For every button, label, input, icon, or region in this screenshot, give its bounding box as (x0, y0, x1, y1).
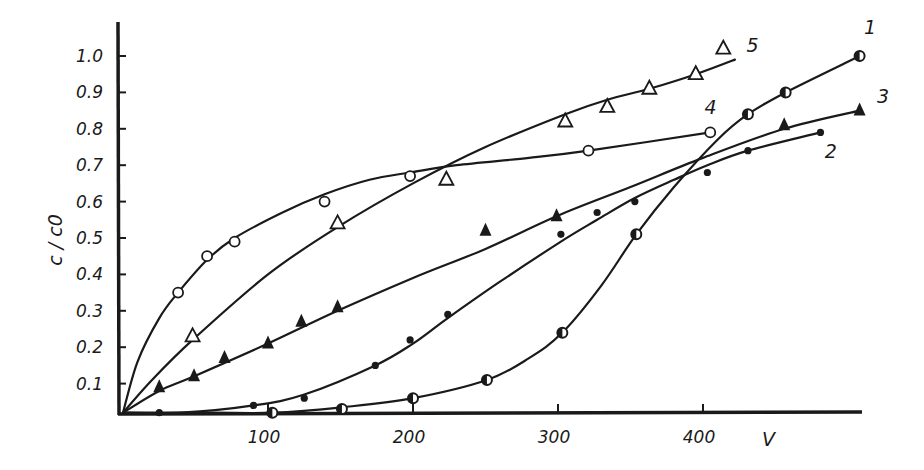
filled-dot-marker (301, 395, 308, 402)
axes (118, 22, 862, 415)
y-axis-line (118, 22, 119, 415)
x-tick-label: 400 (683, 427, 715, 447)
open-circle-marker (405, 171, 415, 181)
half-filled-circle-marker (781, 87, 791, 97)
y-tick-label: 0.5 (76, 228, 103, 248)
y-tick-label: 0.6 (76, 192, 103, 212)
adsorption-breakthrough-chart: 0.10.20.30.40.50.60.70.80.91.0 100200300… (0, 0, 924, 470)
curve-3 (123, 111, 860, 413)
filled-triangle-marker (219, 350, 231, 363)
curve-4 (123, 132, 710, 412)
filled-dot-marker (557, 231, 564, 238)
curve-2 (123, 132, 820, 413)
open-triangle-marker (331, 215, 345, 228)
filled-dot-marker (372, 362, 379, 369)
filled-triangle-marker (854, 103, 866, 116)
open-circle-marker (583, 146, 593, 156)
y-tick-label: 0.8 (76, 119, 103, 139)
curve-label-1: 1 (864, 16, 876, 38)
open-circle-marker (230, 237, 240, 247)
curve-label-4: 4 (704, 96, 716, 118)
filled-dot-marker (744, 147, 751, 154)
open-circle-marker (320, 197, 330, 207)
curve-labels: 12345 (704, 16, 889, 162)
filled-dot-marker (156, 409, 163, 416)
data-markers (153, 41, 865, 418)
half-filled-circle-marker (482, 375, 492, 385)
y-tick-label: 0.4 (76, 264, 103, 284)
open-circle-marker (202, 251, 212, 261)
x-tick-label: 100 (248, 427, 280, 447)
curve-label-3: 3 (877, 85, 889, 107)
half-filled-circle-marker (631, 229, 641, 239)
y-tick-label: 0.2 (76, 337, 103, 357)
half-filled-circle-marker (855, 51, 865, 61)
filled-dot-marker (407, 336, 414, 343)
x-tick-label: 200 (393, 427, 425, 447)
filled-triangle-marker (153, 379, 165, 392)
filled-dot-marker (704, 169, 711, 176)
y-tick-label: 0.7 (76, 155, 103, 175)
filled-dot-marker (594, 209, 601, 216)
curve-label-5: 5 (747, 34, 759, 56)
filled-triangle-marker (332, 299, 344, 312)
y-tick-label: 1.0 (76, 46, 103, 66)
curve-5 (123, 60, 735, 413)
open-circle-marker (173, 288, 183, 298)
filled-triangle-marker (295, 314, 307, 327)
y-tick-label: 0.9 (76, 82, 103, 102)
filled-dot-marker (631, 198, 638, 205)
half-filled-circle-marker (743, 109, 753, 119)
half-filled-circle-marker (267, 408, 277, 418)
half-filled-circle-marker (337, 404, 347, 414)
y-tick-label: 0.3 (76, 301, 103, 321)
filled-dot-marker (444, 311, 451, 318)
open-triangle-marker (439, 172, 453, 185)
y-axis-title: c / c0 (44, 214, 66, 265)
filled-triangle-marker (778, 117, 790, 130)
half-filled-circle-marker (408, 393, 418, 403)
x-axis-title: V (762, 428, 777, 450)
curve-label-2: 2 (825, 140, 837, 162)
y-tick-label: 0.1 (76, 374, 103, 394)
x-tick-label: 300 (538, 427, 570, 447)
filled-dot-marker (250, 402, 257, 409)
filled-dot-marker (817, 129, 824, 136)
half-filled-circle-marker (557, 328, 567, 338)
filled-triangle-marker (480, 223, 492, 236)
open-triangle-marker (716, 41, 730, 54)
open-circle-marker (705, 127, 715, 137)
